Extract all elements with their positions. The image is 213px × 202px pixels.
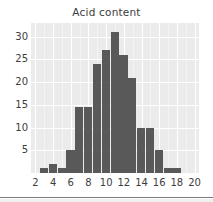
x-tick-label: 6 [68,177,74,188]
y-tick-label: 10 [2,123,28,133]
x-tick-label: 12 [117,177,130,188]
x-tick-label: 16 [153,177,166,188]
x-tick-label: 2 [32,177,38,188]
histogram-bar [58,168,66,173]
plot-area [31,23,199,173]
histogram-bar [93,64,101,173]
y-tick-label: 5 [2,145,28,155]
histogram-bar [111,32,119,173]
y-tick-label: 20 [2,77,28,87]
x-tick-label: 18 [171,177,184,188]
x-axis-tick-labels: 2468101214161820 [31,177,199,191]
histogram-bar [155,150,163,173]
y-tick-label: 25 [2,54,28,64]
bar-series [31,23,199,173]
x-tick-label: 14 [135,177,148,188]
x-tick-label: 20 [188,177,201,188]
chart-title: Acid content [0,6,213,18]
x-tick-label: 10 [100,177,113,188]
histogram-bar [164,168,172,173]
histogram-bar [172,168,180,173]
footer-band [0,199,213,202]
y-tick-label: 15 [2,100,28,110]
x-tick-label: 8 [85,177,91,188]
histogram-bar [40,168,48,173]
histogram-bar [84,107,92,173]
histogram-bar [102,50,110,173]
histogram-bar [75,107,83,173]
footer-divider [0,197,213,198]
histogram-bar [137,128,145,173]
histogram-bar [128,78,136,173]
y-tick-label: 30 [2,32,28,42]
histogram-bar [49,164,57,173]
histogram-bar [119,55,127,173]
y-axis-tick-labels: 51015202530 [0,23,28,173]
histogram-bar [146,128,154,173]
histogram-figure: Acid content 51015202530 246810121416182… [0,0,213,202]
x-tick-label: 4 [50,177,56,188]
histogram-bar [66,150,74,173]
